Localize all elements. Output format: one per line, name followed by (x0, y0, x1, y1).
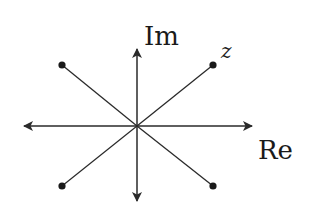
ray-lower-left (62, 126, 137, 186)
ray-z (137, 65, 213, 126)
real-axis-label: Re (258, 135, 293, 165)
point-upper-left (58, 61, 65, 68)
point-z (209, 61, 216, 68)
ray-lower-right (137, 126, 213, 186)
complex-plane-diagram: Im Re z (0, 0, 310, 204)
point-lower-left (58, 182, 65, 189)
point-lower-right (209, 182, 216, 189)
imaginary-axis-label: Im (144, 21, 179, 51)
ray-upper-left (62, 65, 137, 126)
point-z-label: z (220, 39, 232, 63)
